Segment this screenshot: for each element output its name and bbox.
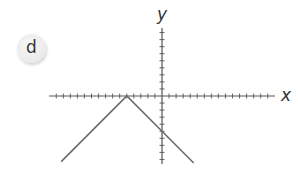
- x-axis-label: x: [280, 85, 292, 105]
- axes: [49, 28, 275, 164]
- coordinate-plane: y x: [0, 0, 298, 176]
- graph-line: [61, 96, 194, 163]
- y-axis-label: y: [156, 4, 168, 24]
- absolute-value-graph: [61, 96, 194, 163]
